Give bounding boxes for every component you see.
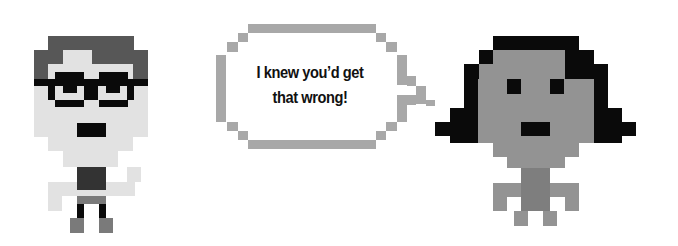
pixel-block bbox=[622, 122, 636, 136]
pixel-block bbox=[435, 122, 450, 136]
pixel-block bbox=[521, 168, 550, 211]
pixel-block bbox=[594, 108, 622, 143]
pixel-block bbox=[514, 211, 528, 226]
pixel-block bbox=[543, 211, 557, 226]
pixel-block bbox=[479, 50, 493, 64]
pixel-block bbox=[493, 36, 579, 50]
pixel-block bbox=[493, 183, 521, 197]
pixel-block bbox=[565, 197, 579, 211]
pixel-block bbox=[493, 50, 565, 64]
pixel-block bbox=[550, 183, 579, 197]
pixel-block bbox=[493, 197, 507, 211]
pixel-block bbox=[507, 157, 565, 168]
pixel-block bbox=[493, 143, 579, 157]
right-character-dark-hair bbox=[0, 0, 678, 246]
pixel-block bbox=[507, 79, 521, 94]
pixel-block bbox=[450, 108, 478, 143]
pixel-block bbox=[565, 64, 608, 79]
pixel-block bbox=[521, 122, 550, 136]
speech-line-2: that wrong! bbox=[246, 85, 373, 110]
pixel-block bbox=[565, 50, 594, 64]
speech-bubble-text: I knew you’d get that wrong! bbox=[246, 60, 373, 110]
pixel-block bbox=[479, 64, 565, 79]
speech-line-1: I knew you’d get bbox=[246, 60, 373, 85]
pixel-block bbox=[550, 79, 564, 94]
